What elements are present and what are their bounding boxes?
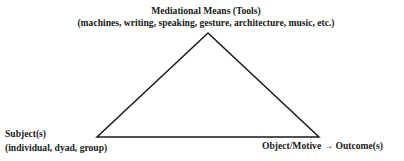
mediational-means-label: Mediational Means (Tools) (machines, wri… xyxy=(0,5,404,29)
subject-examples: (individual, dyad, group) xyxy=(5,142,107,154)
triangle-shape xyxy=(97,33,319,137)
mediational-means-title: Mediational Means (Tools) xyxy=(0,5,404,17)
object-motive-text: Object/Motive xyxy=(262,140,321,151)
subject-title: Subject(s) xyxy=(5,128,107,140)
arrow-right-icon: → xyxy=(324,140,334,151)
mediational-means-examples: (machines, writing, speaking, gesture, a… xyxy=(0,17,404,29)
subject-label: Subject(s) (individual, dyad, group) xyxy=(5,128,107,154)
object-outcome-label: Object/Motive → Outcome(s) xyxy=(262,140,383,152)
outcome-text: Outcome(s) xyxy=(336,140,383,151)
